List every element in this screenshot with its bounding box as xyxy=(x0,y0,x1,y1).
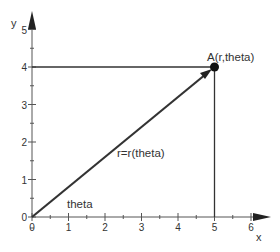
y-tick-labels: 0 1 2 3 4 5 xyxy=(21,25,27,223)
x-axis xyxy=(32,213,271,221)
radius-vector xyxy=(32,74,206,217)
x-tick-label: 3 xyxy=(139,222,145,233)
x-axis-arrow-icon xyxy=(253,213,271,221)
y-axis-label: y xyxy=(11,17,17,29)
x-axis-label: x xyxy=(256,231,262,243)
x-tick-label: 0 xyxy=(29,222,35,233)
vector-label: r=r(theta) xyxy=(117,147,165,159)
angle-label: theta xyxy=(67,198,93,210)
x-tick-label: 2 xyxy=(102,222,108,233)
point-a-marker xyxy=(210,63,219,72)
y-tick-label: 0 xyxy=(21,212,27,223)
x-tick-label: 1 xyxy=(66,222,72,233)
x-tick-label: 4 xyxy=(175,222,181,233)
x-tick-label: 6 xyxy=(248,222,254,233)
y-tick-label: 4 xyxy=(21,62,27,73)
y-tick-label: 2 xyxy=(21,137,27,148)
y-axis-arrow-icon xyxy=(28,11,36,29)
point-a-label: A(r,theta) xyxy=(207,51,254,63)
y-tick-label: 1 xyxy=(21,175,27,186)
y-axis xyxy=(28,11,36,228)
y-tick-label: 3 xyxy=(21,100,27,111)
x-tick-label: 5 xyxy=(212,222,218,233)
y-tick-label: 5 xyxy=(21,25,27,36)
polar-coordinate-diagram: 0 1 2 3 4 5 6 0 1 2 3 4 5 x y A(r,theta)… xyxy=(0,0,280,252)
x-tick-labels: 0 1 2 3 4 5 6 xyxy=(29,222,254,233)
